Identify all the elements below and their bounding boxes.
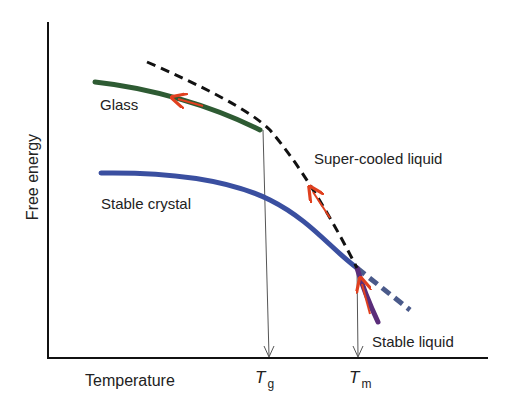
tick-tm: Tm	[349, 368, 371, 391]
stable-crystal-curve	[101, 173, 357, 268]
tm-guide-line	[357, 268, 358, 356]
y-axis-title: Free energy	[24, 122, 42, 232]
label-stable-liquid: Stable liquid	[372, 333, 454, 350]
stable-liquid-curve	[357, 268, 378, 322]
tick-tg: Tg	[255, 368, 274, 391]
diagram-canvas	[0, 0, 514, 413]
label-glass: Glass	[100, 96, 138, 113]
supercooled-arrow-icon	[313, 192, 330, 218]
tick-tg-subscript: g	[267, 377, 274, 391]
tick-tg-symbol: T	[255, 368, 265, 387]
tg-guide-line	[263, 130, 269, 356]
label-supercooled-liquid: Super-cooled liquid	[314, 150, 442, 167]
label-stable-crystal: Stable crystal	[101, 195, 191, 212]
tick-tm-symbol: T	[349, 368, 359, 387]
tick-tm-subscript: m	[361, 377, 371, 391]
x-axis-title: Temperature	[85, 372, 175, 390]
